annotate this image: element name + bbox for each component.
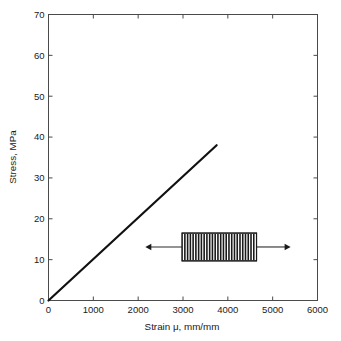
x-tick-label-0: 0: [46, 304, 51, 315]
x-tick-label-6000: 6000: [307, 304, 328, 315]
y-tick-label-50: 50: [34, 91, 45, 102]
x-tick-label-4000: 4000: [217, 304, 238, 315]
x-tick-label-5000: 5000: [262, 304, 283, 315]
x-tick-label-1000: 1000: [83, 304, 104, 315]
y-tick-label-70: 70: [34, 9, 45, 20]
chart-figure: 0100020003000400050006000 01020304050607…: [0, 0, 341, 341]
x-tick-label-2000: 2000: [128, 304, 149, 315]
y-tick-label-40: 40: [34, 131, 45, 142]
y-axis-title: Stress, MPa: [7, 130, 18, 184]
y-tick-label-60: 60: [34, 50, 45, 61]
y-tick-label-20: 20: [34, 213, 45, 224]
y-tick-label-0: 0: [39, 295, 44, 306]
x-axis-title: Strain μ, mm/mm: [145, 321, 220, 332]
figure-background: [0, 0, 341, 341]
x-tick-label-3000: 3000: [172, 304, 193, 315]
y-tick-label-30: 30: [34, 172, 45, 183]
y-tick-label-10: 10: [34, 254, 45, 265]
stress-strain-plot: 0100020003000400050006000 01020304050607…: [0, 0, 341, 341]
